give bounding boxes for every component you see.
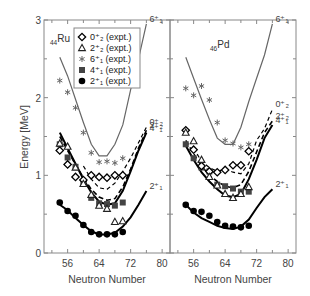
x-tick-label: 64 [220,258,232,269]
marker-asterisk [246,141,251,147]
marker-open-diamond [72,173,79,180]
marker-filled-circle [119,229,126,236]
marker-asterisk [183,85,188,91]
marker-filled-circle [88,229,95,236]
x-tick-label: 64 [94,258,106,269]
marker-open-triangle [190,138,197,144]
x-tick-label: 72 [251,258,263,269]
marker-open-diamond [119,172,126,179]
series-0p2 [182,127,252,176]
nucleus-label-ru: 44Ru [50,33,70,46]
marker-open-diamond [245,148,252,155]
legend-entry-2p2: 2⁺₂ (expt.) [90,43,132,53]
marker-asterisk [65,89,70,95]
marker-filled-circle [245,223,252,230]
chart: 566472800123Neutron Number2⁺₁4⁺₁2⁺₂0⁺₂6⁺… [0,0,310,296]
theory-curve-2p1 [186,189,273,229]
marker-open-diamond [111,172,118,179]
legend-entry-6p1: 6⁺₁ (expt.) [90,54,131,64]
marker-asterisk [191,92,196,98]
marker-filled-circle [56,199,63,206]
theory-curve-2p1 [60,191,147,235]
marker-asterisk [104,158,109,164]
marker-filled-circle [190,208,197,215]
marker-open-diamond [221,166,228,173]
marker-asterisk [97,159,102,165]
x-tick-label: 80 [157,258,169,269]
curve-label-2p1: 2⁺₁ [275,179,288,189]
panel-frame [170,20,296,253]
marker-filled-circle [112,231,119,238]
curve-label-0p2: 0⁺₂ [275,99,289,109]
marker-filled-circle [238,224,245,231]
curve-label-6p1: 6⁺₁ [149,14,162,24]
marker-filled-circle [96,231,103,238]
marker-filled-square [222,183,228,189]
marker-asterisk [238,144,243,150]
nucleus-label-pd: 46Pd [210,39,229,52]
marker-asterisk [199,83,204,89]
marker-filled-square [183,141,189,147]
marker-asterisk [120,155,125,161]
marker-filled-circle [214,219,221,226]
y-tick-label: 2 [35,93,41,104]
y-axis-title: Energy [MeV] [18,105,30,169]
marker-open-triangle [119,218,126,224]
marker-open-diamond [64,161,71,168]
legend-entry-2p1: 2⁺₁ (expt.) [90,76,131,86]
x-tick-label: 56 [188,258,200,269]
marker-filled-circle [64,208,71,215]
curve-label-6p1: 6⁺₁ [275,14,288,24]
marker-asterisk [89,150,94,156]
y-tick-label: 1 [35,170,41,181]
x-axis-title: Neutron Number [68,273,146,285]
marker-asterisk [207,97,212,103]
curve-label-2p2: 2⁺₂ [275,111,289,121]
y-tick-label: 3 [35,15,41,26]
theory-curve-0p2 [83,127,146,189]
marker-open-diamond [95,173,102,180]
marker-asterisk [81,130,86,136]
marker-filled-square [230,186,236,192]
marker-filled-square [79,67,85,73]
x-tick-label: 72 [125,258,137,269]
marker-open-triangle [111,218,118,224]
legend-entry-4p1: 4⁺₁ (expt.) [90,65,131,75]
marker-open-diamond [190,146,197,153]
marker-filled-square [112,203,118,209]
marker-open-diamond [103,174,110,181]
marker-open-diamond [88,172,95,179]
curve-label-0p2: 0⁺₂ [149,117,163,127]
legend-entry-0p2: 0⁺₂ (expt.) [90,32,132,42]
x-axis-title: Neutron Number [194,273,272,285]
marker-filled-circle [79,78,86,85]
marker-filled-circle [72,212,79,219]
marker-open-diamond [56,147,63,154]
marker-filled-square [191,155,197,161]
marker-filled-circle [198,209,205,216]
marker-filled-square [120,200,126,206]
marker-filled-square [65,154,71,160]
marker-asterisk [57,78,62,84]
marker-asterisk [215,120,220,126]
marker-filled-circle [206,212,213,219]
marker-open-diamond [237,162,244,169]
panel-ru: 566472800123Neutron Number2⁺₁4⁺₁2⁺₂0⁺₂6⁺… [35,14,170,285]
marker-filled-circle [222,223,229,230]
x-tick-label: 56 [62,258,74,269]
legend: 0⁺₂ (expt.)2⁺₂ (expt.)6⁺₁ (expt.)4⁺₁ (ex… [74,28,140,88]
marker-open-diamond [229,162,236,169]
marker-asterisk [112,160,117,166]
series-6p1 [57,78,125,166]
y-tick-label: 0 [35,248,41,259]
marker-filled-circle [182,202,189,209]
marker-filled-circle [230,223,237,230]
panel-pd: 56647280Neutron Number2⁺₁4⁺₁2⁺₂0⁺₂6⁺₁46P… [170,14,296,285]
x-tick-label: 80 [283,258,295,269]
curve-label-2p1: 2⁺₁ [149,181,162,191]
marker-filled-circle [104,231,111,238]
marker-filled-circle [80,222,87,229]
